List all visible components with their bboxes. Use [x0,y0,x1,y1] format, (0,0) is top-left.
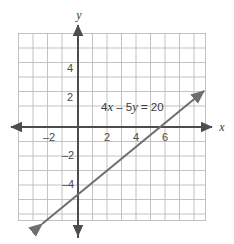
coordinate-plane-graph: –2 2 4 6 4 2 –2 –4 y x 4x – 5y = 20 [0,0,234,244]
y-tick-label--2: –2 [62,149,74,161]
y-tick-label-2: 2 [67,91,73,103]
y-tick-label--4: –4 [62,178,74,190]
x-tick-label--2: –2 [43,131,55,143]
y-tick-label-4: 4 [67,62,73,74]
x-axis-label: x [218,120,225,134]
x-tick-label-6: 6 [162,131,168,143]
graph-svg: –2 2 4 6 4 2 –2 –4 y x 4x – 5y = 20 [0,0,234,244]
y-axis-label: y [75,8,82,22]
canvas-background [0,0,234,244]
equation-annotation: 4x – 5y = 20 [101,100,164,114]
equation-middle: – 5 [113,101,132,113]
equation-result: = 20 [138,101,164,113]
x-tick-label-4: 4 [133,131,139,143]
x-tick-label-2: 2 [104,131,110,143]
